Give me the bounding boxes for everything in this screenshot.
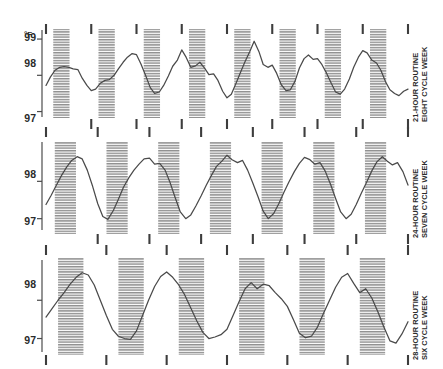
sleep-band [158,142,179,234]
sleep-band [360,258,385,355]
panel-28h: 98 97 28-HOUR ROUTINE SIX CYCLE WEEK [0,240,443,369]
temperature-trace [46,272,408,343]
panel-24h-label-line2: SEVEN CYCLE WEEK [420,160,429,238]
sleep-band [370,29,386,118]
sleep-band [98,29,114,118]
sleep-band [262,142,283,234]
sleep-band [144,29,160,118]
temperature-rhythm-figure: °F 99 98 97 21-HOUR ROUTINE EIGHT CYCLE … [0,0,443,369]
sleep-band [239,258,264,355]
sleep-band [106,142,127,234]
panel-21h-label-line2: EIGHT CYCLE WEEK [420,46,429,122]
sleep-band [279,29,295,118]
panel-24h-label: 24-HOUR ROUTINE SEVEN CYCLE WEEK [412,160,429,238]
sleep-band [299,258,324,355]
sleep-band [58,258,83,355]
panel-21h-label: 21-HOUR ROUTINE EIGHT CYCLE WEEK [412,46,429,122]
sleep-band [118,258,143,355]
panel-28h-plot [0,240,443,369]
panel-28h-label: 28-HOUR ROUTINE SIX CYCLE WEEK [412,291,429,360]
sleep-band [234,29,250,118]
panel-24h: 98 97 24-HOUR ROUTINE SEVEN CYCLE WEEK [0,124,443,246]
panel-28h-label-line2: SIX CYCLE WEEK [420,295,429,360]
panel-21h-plot [0,0,443,130]
sleep-band [365,142,386,234]
panel-21h: 99 98 97 21-HOUR ROUTINE EIGHT CYCLE WEE… [0,0,443,130]
sleep-band [53,29,69,118]
sleep-band [189,29,205,118]
sleep-band [179,258,204,355]
panel-24h-plot [0,124,443,246]
sleep-band [55,142,76,234]
